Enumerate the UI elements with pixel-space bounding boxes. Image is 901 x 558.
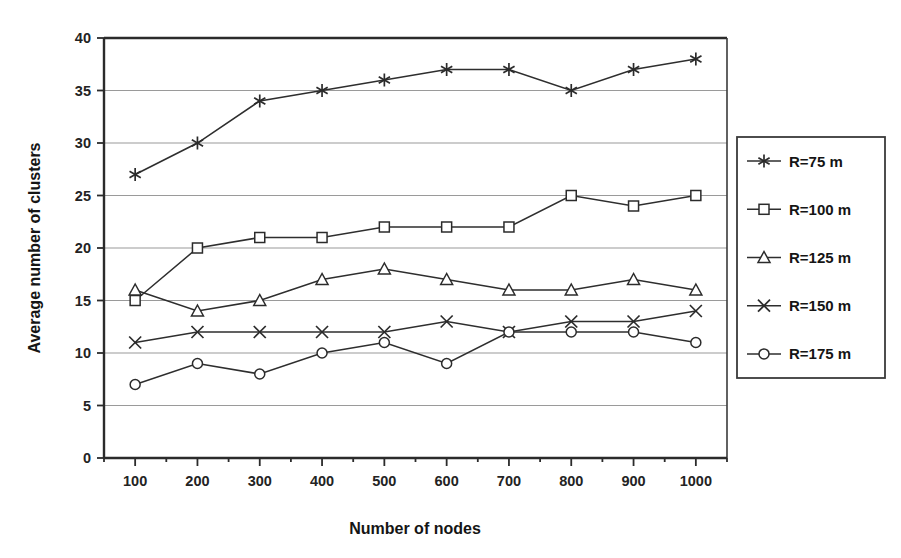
y-tick-label-0: 0: [83, 450, 91, 466]
series-1-point-2-square-marker: [255, 233, 265, 243]
legend-label-4: R=175 m: [789, 345, 851, 362]
x-tick-label-100: 100: [123, 473, 147, 489]
y-tick-label-30: 30: [75, 135, 91, 151]
y-tick-label-25: 25: [75, 188, 91, 204]
x-tick-label-1000: 1000: [680, 473, 712, 489]
series-1-point-3-square-marker: [317, 233, 327, 243]
x-tick-label-200: 200: [185, 473, 209, 489]
y-tick-label-20: 20: [75, 240, 91, 256]
y-tick-label-15: 15: [75, 293, 91, 309]
series-4-point-0-circle-marker: [130, 380, 140, 390]
x-tick-label-900: 900: [621, 473, 645, 489]
x-tick-label-700: 700: [497, 473, 521, 489]
legend-4-circle-marker: [759, 349, 769, 359]
x-tick-label-300: 300: [248, 473, 272, 489]
series-1-point-1-square-marker: [192, 243, 202, 253]
legend-1-square-marker: [759, 204, 769, 214]
series-4-point-6-circle-marker: [504, 327, 514, 337]
series-4-point-7-circle-marker: [566, 327, 576, 337]
y-tick-label-5: 5: [83, 398, 91, 414]
x-tick-label-500: 500: [372, 473, 396, 489]
series-1-point-8-square-marker: [629, 201, 639, 211]
y-tick-label-40: 40: [75, 30, 91, 46]
series-4-point-3-circle-marker: [317, 348, 327, 358]
series-4-point-8-circle-marker: [629, 327, 639, 337]
series-4-point-9-circle-marker: [691, 338, 701, 348]
series-1-point-7-square-marker: [566, 191, 576, 201]
chart-figure: 0510152025303540 10020030040050060070080…: [0, 0, 901, 558]
legend-label-3: R=150 m: [789, 297, 851, 314]
series-1-point-0-square-marker: [130, 296, 140, 306]
series-1-point-6-square-marker: [504, 222, 514, 232]
legend-label-0: R=75 m: [789, 153, 843, 170]
x-tick-label-800: 800: [559, 473, 583, 489]
legend-label-2: R=125 m: [789, 249, 851, 266]
series-1-point-5-square-marker: [442, 222, 452, 232]
series-4-point-2-circle-marker: [255, 369, 265, 379]
line-chart: 0510152025303540 10020030040050060070080…: [0, 0, 901, 558]
series-1-point-4-square-marker: [379, 222, 389, 232]
series-4-point-1-circle-marker: [192, 359, 202, 369]
series-4-point-5-circle-marker: [442, 359, 452, 369]
x-axis-title: Number of nodes: [349, 520, 481, 537]
x-tick-label-600: 600: [435, 473, 459, 489]
series-1-point-9-square-marker: [691, 191, 701, 201]
y-tick-label-10: 10: [75, 345, 91, 361]
y-tick-label-35: 35: [75, 83, 91, 99]
y-axis-title: Average number of clusters: [26, 142, 43, 353]
legend-label-1: R=100 m: [789, 201, 851, 218]
series-4-point-4-circle-marker: [379, 338, 389, 348]
legend: R=75 mR=100 mR=125 mR=150 mR=175 m: [737, 137, 885, 378]
x-tick-label-400: 400: [310, 473, 334, 489]
